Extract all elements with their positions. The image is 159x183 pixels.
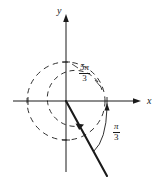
reference-angle-arc-pi3 [94, 108, 107, 151]
rotation-arc-arrowhead [76, 124, 85, 130]
unit-circle-angle-diagram: x y 5π 3 π 3 [0, 0, 159, 183]
angle-label-5pi-over-3-numerator: 5π [79, 63, 90, 72]
x-axis-arrowhead [133, 98, 141, 104]
leader-5pi3-left [72, 64, 78, 68]
y-axis-arrowhead [63, 14, 69, 22]
angle-label-pi-over-3: π 3 [113, 122, 120, 143]
angle-label-5pi-over-3-denominator: 3 [79, 74, 90, 83]
diagram-canvas [0, 0, 159, 183]
y-axis-label: y [57, 6, 61, 16]
x-axis-label: x [147, 96, 151, 106]
angle-label-5pi-over-3: 5π 3 [79, 63, 90, 84]
terminal-ray [66, 101, 107, 176]
angle-label-pi-over-3-denominator: 3 [113, 133, 120, 142]
angle-label-pi-over-3-numerator: π [113, 122, 120, 131]
